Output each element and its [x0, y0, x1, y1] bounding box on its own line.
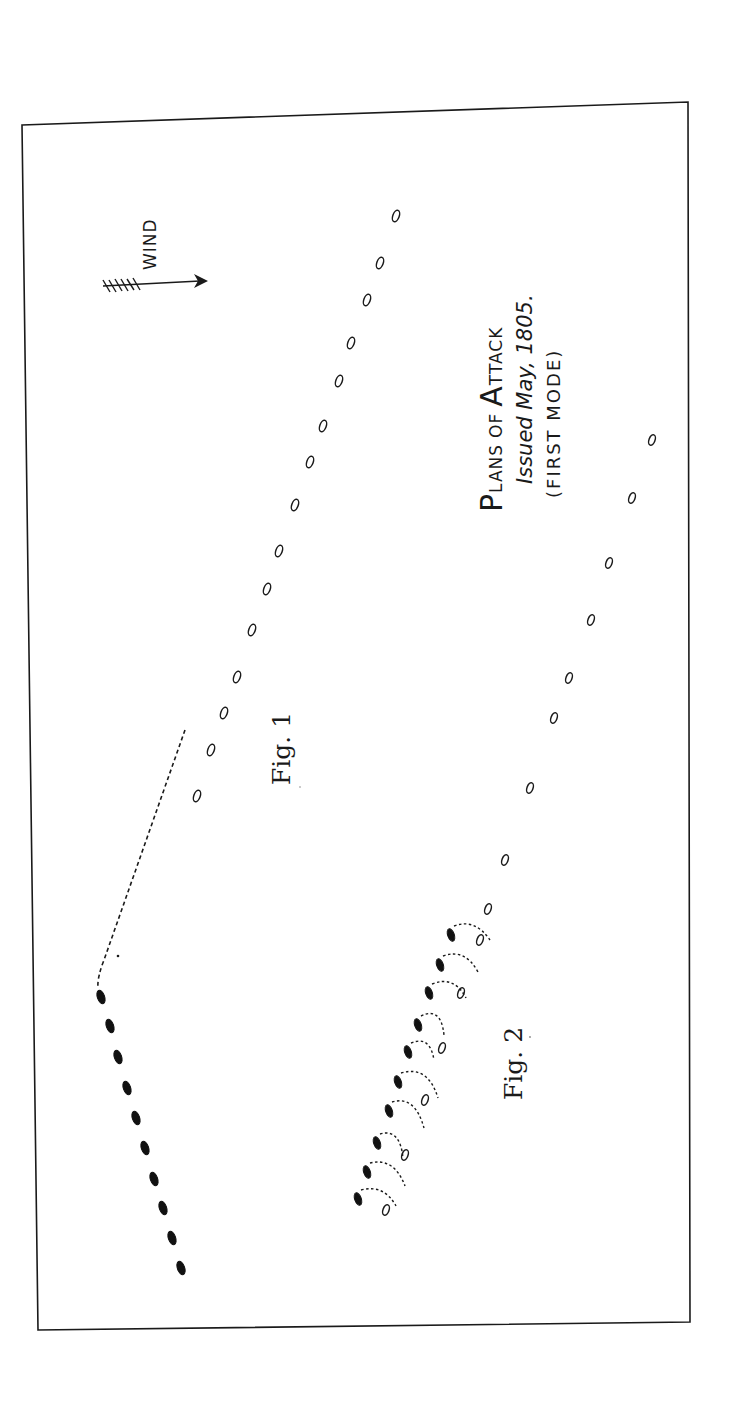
fig1-approach-track	[98, 730, 185, 988]
white-ship	[247, 623, 257, 636]
turn-arc	[380, 1133, 403, 1158]
fig2-label: Fig. 2	[499, 1027, 528, 1100]
white-ship	[334, 374, 344, 387]
white-ship	[586, 614, 595, 626]
wind-label: WIND	[140, 218, 160, 270]
turn-arc	[392, 1101, 424, 1128]
plans-of-attack-diagram: WIND PLANSOFATTACK Issued May, 1805. (FI…	[0, 0, 755, 1420]
white-ship	[375, 256, 385, 269]
white-ship	[219, 706, 229, 719]
turn-arc	[421, 1013, 444, 1035]
white-ship	[290, 498, 300, 511]
turn-arc	[432, 981, 466, 998]
white-ship	[437, 1042, 446, 1054]
fig1-label: Fig. 1	[267, 712, 296, 785]
fig1-enemy-line	[192, 209, 401, 802]
black-ship	[139, 1140, 151, 1156]
white-ship	[483, 903, 492, 915]
white-ship	[500, 854, 509, 866]
white-ship	[391, 209, 401, 222]
turn-arc	[370, 1162, 405, 1186]
white-ship	[274, 544, 284, 557]
fig1-friendly-line	[95, 989, 187, 1276]
black-ship	[446, 928, 457, 942]
black-ship	[148, 1171, 160, 1187]
scan-speck	[299, 786, 301, 788]
fig1-dot-mark	[117, 955, 120, 958]
title-plans-of-attack: PLANSOFATTACK	[474, 327, 509, 512]
black-ship	[166, 1230, 178, 1246]
black-ship	[157, 1200, 169, 1216]
white-ship	[525, 782, 534, 794]
wind-arrow-icon	[103, 274, 208, 292]
turn-arc	[443, 954, 478, 972]
white-ship	[262, 582, 272, 595]
white-ship	[549, 712, 558, 724]
black-ship	[393, 1075, 404, 1089]
black-ship	[435, 958, 446, 972]
turn-arc	[361, 1189, 396, 1206]
white-ship	[318, 419, 328, 432]
white-ship	[475, 934, 484, 946]
black-ship	[353, 1192, 364, 1206]
turn-arc	[401, 1071, 438, 1098]
white-ship	[362, 293, 372, 306]
black-ship	[112, 1049, 124, 1065]
black-ship	[424, 986, 435, 1000]
white-ship	[647, 434, 656, 446]
white-ship	[604, 557, 613, 569]
black-ship	[403, 1045, 414, 1059]
scan-speck	[529, 1036, 531, 1038]
title-block: PLANSOFATTACK Issued May, 1805. (FIRST M…	[474, 294, 564, 512]
white-ship	[232, 670, 242, 683]
black-ship	[175, 1260, 187, 1276]
turn-arc	[411, 1041, 434, 1060]
black-ship	[362, 1165, 373, 1179]
black-ship	[121, 1080, 133, 1096]
black-ship	[95, 989, 107, 1005]
title-issued-date: Issued May, 1805.	[513, 294, 537, 484]
white-ship	[192, 789, 202, 802]
white-ship	[381, 1204, 390, 1216]
diagram-frame	[22, 102, 690, 1330]
white-ship	[346, 336, 356, 349]
fig2-friendly-line	[353, 924, 490, 1206]
turn-arc	[454, 924, 490, 940]
white-ship	[456, 987, 465, 999]
black-ship	[384, 1104, 395, 1118]
white-ship	[206, 743, 216, 756]
white-ship	[305, 455, 315, 468]
white-ship	[627, 492, 636, 504]
white-ship	[564, 672, 573, 684]
black-ship	[130, 1110, 142, 1126]
white-ship	[420, 1094, 429, 1106]
black-ship	[372, 1136, 383, 1150]
black-ship	[104, 1018, 116, 1034]
title-mode: (FIRST MODE)	[543, 349, 564, 498]
black-ship	[413, 1018, 424, 1032]
